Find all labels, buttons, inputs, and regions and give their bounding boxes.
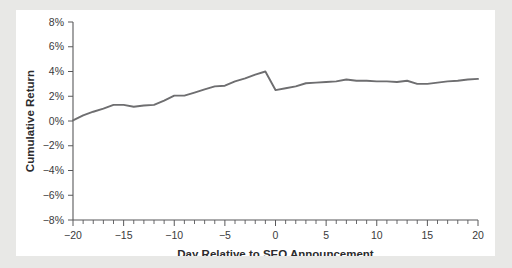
x-tick-label: 0 bbox=[273, 229, 279, 241]
y-axis-ticks bbox=[68, 22, 73, 220]
x-tick-label: −10 bbox=[165, 229, 183, 241]
y-tick-label: 0% bbox=[49, 115, 64, 127]
y-axis-tick-labels: 8%6%4%2%0%−2%−4%−6%−8% bbox=[43, 16, 64, 226]
x-tick-label: −5 bbox=[219, 229, 231, 241]
y-tick-label: 6% bbox=[49, 40, 64, 52]
y-axis-title: Cumulative Return bbox=[24, 70, 36, 172]
figure-panel: 8%6%4%2%0%−2%−4%−6%−8% −20−15−10−5051015… bbox=[16, 10, 495, 256]
cumulative-return-series-line bbox=[73, 72, 478, 121]
x-tick-label: 5 bbox=[323, 229, 329, 241]
x-tick-label: 15 bbox=[422, 229, 434, 241]
x-tick-label: −15 bbox=[115, 229, 133, 241]
y-tick-label: −8% bbox=[43, 214, 64, 226]
x-axis-ticks bbox=[73, 220, 478, 226]
x-axis: −20−15−10−505101520 bbox=[64, 220, 484, 241]
cumulative-return-line-chart: 8%6%4%2%0%−2%−4%−6%−8% −20−15−10−5051015… bbox=[16, 10, 495, 256]
x-axis-tick-labels: −20−15−10−505101520 bbox=[64, 229, 484, 241]
x-axis-title: Day Relative to SEO Announcement bbox=[177, 248, 374, 256]
y-tick-label: −6% bbox=[43, 189, 64, 201]
x-tick-label: −20 bbox=[64, 229, 82, 241]
y-axis: 8%6%4%2%0%−2%−4%−6%−8% bbox=[43, 16, 73, 226]
y-tick-label: 4% bbox=[49, 65, 64, 77]
chart-canvas: 8%6%4%2%0%−2%−4%−6%−8% −20−15−10−5051015… bbox=[16, 10, 495, 256]
x-tick-label: 10 bbox=[371, 229, 383, 241]
x-tick-label: 20 bbox=[472, 229, 484, 241]
y-tick-label: −4% bbox=[43, 164, 64, 176]
y-tick-label: 2% bbox=[49, 90, 64, 102]
y-tick-label: −2% bbox=[43, 139, 64, 151]
y-tick-label: 8% bbox=[49, 16, 64, 28]
